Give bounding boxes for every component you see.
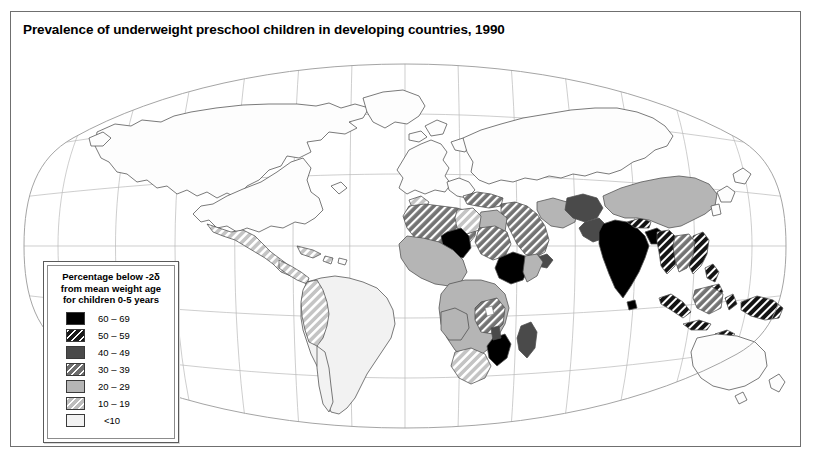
- legend-swatch-lt10: [66, 414, 85, 427]
- legend-label-40-49: 40 – 49: [98, 347, 130, 358]
- legend-title-line3: for children 0-5 years: [63, 294, 159, 305]
- legend-swatch-20-29: [66, 380, 85, 393]
- legend-item-30-39[interactable]: 30 – 39: [48, 361, 174, 378]
- legend-item-20-29[interactable]: 20 – 29: [48, 378, 174, 395]
- legend-label-50-59: 50 – 59: [98, 330, 130, 341]
- legend-item-10-19[interactable]: 10 – 19: [48, 395, 174, 412]
- legend-label-20-29: 20 – 29: [98, 381, 130, 392]
- legend-item-60-69[interactable]: 60 – 69: [48, 310, 174, 327]
- legend-label-lt10: <10: [104, 415, 120, 426]
- legend-swatch-40-49: [66, 346, 85, 359]
- legend-title-line2: from mean weight age: [61, 283, 161, 294]
- legend-label-30-39: 30 – 39: [98, 364, 130, 375]
- legend-item-lt10[interactable]: <10: [48, 412, 174, 429]
- legend-item-40-49[interactable]: 40 – 49: [48, 344, 174, 361]
- legend-swatch-30-39: [66, 363, 85, 376]
- legend-swatch-60-69: [66, 312, 85, 325]
- legend-title-line1: Percentage below -2δ: [62, 271, 160, 282]
- legend-swatch-50-59: [66, 329, 85, 342]
- legend-item-50-59[interactable]: 50 – 59: [48, 327, 174, 344]
- legend-label-10-19: 10 – 19: [98, 398, 130, 409]
- legend-label-60-69: 60 – 69: [98, 313, 130, 324]
- page-title: Prevalence of underweight preschool chil…: [23, 22, 505, 37]
- region-australia: [691, 334, 785, 404]
- legend-inner-frame: Percentage below -2δ from mean weight ag…: [47, 265, 175, 439]
- figure-panel: Prevalence of underweight preschool chil…: [10, 11, 801, 447]
- map-legend: Percentage below -2δ from mean weight ag…: [43, 261, 179, 443]
- legend-title: Percentage below -2δ from mean weight ag…: [48, 266, 174, 310]
- legend-swatch-10-19: [66, 397, 85, 410]
